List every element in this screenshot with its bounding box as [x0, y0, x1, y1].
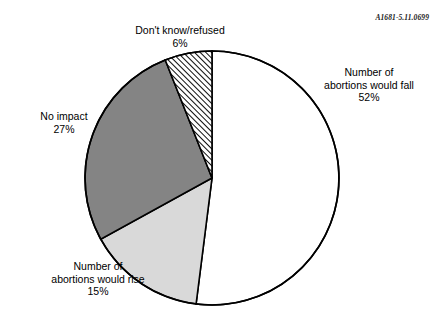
pie-label-dont-know-refused: Don't know/refused 6%: [110, 24, 250, 49]
pie-label-abortions-would-fall: Number of abortions would fall 52%: [306, 66, 432, 104]
pie-label-abortions-would-rise-line1: Number of: [73, 260, 122, 272]
pie-label-dont-know-refused-text: Don't know/refused: [135, 24, 225, 36]
pie-label-dont-know-refused-value: 6%: [110, 37, 250, 50]
pie-label-abortions-would-fall-line1: Number of: [344, 66, 393, 78]
pie-label-no-impact-value: 27%: [12, 123, 116, 136]
pie-label-abortions-would-rise: Number of abortions would rise 15%: [22, 260, 174, 298]
pie-label-abortions-would-fall-line2: abortions would fall: [306, 79, 432, 92]
pie-label-abortions-would-fall-value: 52%: [306, 91, 432, 104]
pie-label-abortions-would-rise-line2: abortions would rise: [22, 273, 174, 286]
chart-page: A1681-5.11.0699 Don't know/refused 6% Nu…: [0, 0, 436, 326]
pie-label-no-impact-text: No impact: [40, 110, 87, 122]
pie-label-abortions-would-rise-value: 15%: [22, 285, 174, 298]
pie-label-no-impact: No impact 27%: [12, 110, 116, 135]
